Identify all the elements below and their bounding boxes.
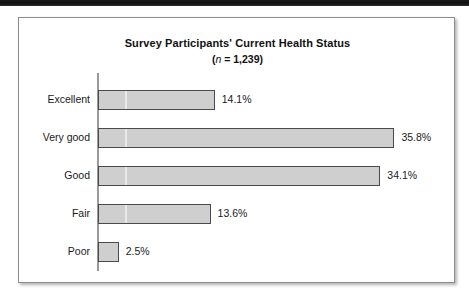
bar-row: Excellent14.1%	[19, 90, 456, 110]
bar-row: Very good35.8%	[19, 128, 456, 148]
category-label: Very good	[0, 131, 90, 143]
bar	[98, 90, 215, 110]
bar	[98, 128, 394, 148]
category-label: Fair	[0, 207, 90, 219]
bar-value-label: 14.1%	[222, 93, 252, 105]
plot-area: Excellent14.1%Very good35.8%Good34.1%Fai…	[19, 18, 456, 284]
bar-row: Fair13.6%	[19, 204, 456, 224]
bar-value-label: 13.6%	[218, 207, 248, 219]
category-label: Good	[0, 169, 90, 181]
bar	[98, 166, 380, 186]
bar-row: Good34.1%	[19, 166, 456, 186]
bar-row: Poor2.5%	[19, 242, 456, 262]
bar-value-label: 35.8%	[401, 131, 431, 143]
category-label: Excellent	[0, 93, 90, 105]
scan-edge-artifact	[0, 0, 469, 6]
figure-panel: Survey Participants' Current Health Stat…	[18, 17, 455, 283]
bar	[98, 204, 211, 224]
category-label: Poor	[0, 245, 90, 257]
bar	[98, 242, 119, 262]
bar-value-label: 34.1%	[387, 169, 417, 181]
bar-value-label: 2.5%	[126, 245, 150, 257]
